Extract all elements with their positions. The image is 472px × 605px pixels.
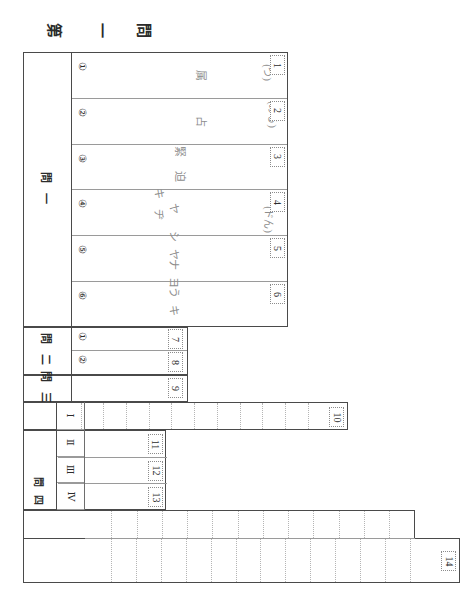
section-label-mon-2: 問 二	[24, 328, 72, 374]
answer-number-box[interactable]: 14	[441, 551, 456, 571]
mon-3-rows: 9	[72, 376, 187, 401]
section-label-mon-3: 問 三	[24, 376, 72, 401]
answer-row[interactable]: 9	[72, 376, 187, 401]
answer-number-box[interactable]: 11	[148, 434, 163, 454]
page-title-char-2: 一	[96, 20, 111, 41]
section-mon-1: 問 一 ① 属 (つ) 1 ② 占 (める) 2 ③ 緊 迫 3 ④ キ ヂ (…	[23, 52, 288, 327]
item-marker: ②	[78, 107, 87, 118]
item-marker: ②	[78, 354, 87, 365]
item-marker: ①	[78, 61, 87, 72]
answer-number-box[interactable]: 13	[148, 487, 163, 507]
mon-1-rows: ① 属 (つ) 1 ② 占 (める) 2 ③ 緊 迫 3 ④ キ ヂ (ドん) …	[72, 53, 287, 326]
answer-row[interactable]: ① 7	[72, 328, 187, 351]
section-5-row-1[interactable]	[23, 510, 415, 538]
mon-2-rows: ① 7 ② 8	[72, 328, 187, 374]
row-marker-4: Ⅳ	[57, 483, 84, 510]
answer-row[interactable]: ② 8	[72, 351, 187, 374]
answer-number-box[interactable]: 1	[270, 55, 285, 75]
answer-number-box[interactable]: 7	[168, 329, 183, 349]
answer-text: 緊 迫	[160, 159, 203, 175]
answer-text: 属	[196, 67, 207, 83]
page-title-char-3: 問	[138, 20, 153, 41]
item-marker: ①	[78, 331, 87, 342]
answer-reading: (ドん)	[256, 212, 283, 227]
answer-number-box[interactable]: 10	[329, 407, 344, 427]
page-title-char-1: 第	[48, 20, 63, 41]
item-marker: ⑤	[78, 244, 87, 255]
answer-text: 占	[196, 113, 207, 129]
answer-row[interactable]: ⑥ ヤ ヨ キ ヨ 6	[72, 282, 287, 328]
writing-grid-5-2[interactable]	[86, 539, 437, 582]
row-marker-2: Ⅱ	[57, 430, 84, 457]
answer-number-box[interactable]: 6	[270, 284, 285, 304]
answer-number-box[interactable]: 5	[270, 238, 285, 258]
answer-row[interactable]: ③ 緊 迫 3	[72, 145, 287, 191]
answer-row[interactable]: ② 占 (める) 2	[72, 99, 287, 145]
answer-number-box[interactable]: 4	[270, 192, 285, 212]
item-marker: ③	[78, 153, 87, 164]
writing-grid-5-1[interactable]	[86, 511, 414, 538]
section-mon-2: 問 二 ① 7 ② 8	[23, 327, 188, 375]
answer-number-box[interactable]: 8	[168, 352, 183, 372]
writing-grid-row-1[interactable]	[58, 403, 325, 429]
row-marker-1: Ⅰ	[57, 402, 84, 430]
section-mon-3: 問 三 9	[23, 375, 188, 402]
answer-row[interactable]: ① 属 (つ) 1	[72, 53, 287, 99]
answer-number-box[interactable]: 3	[270, 147, 285, 167]
section-label-mon-1: 問 一	[24, 53, 72, 326]
item-marker: ④	[78, 198, 87, 209]
item-marker: ⑥	[78, 290, 87, 301]
answer-number-box[interactable]: 9	[168, 378, 183, 398]
page-title: 第 一 問	[40, 16, 180, 50]
row-marker-3: Ⅲ	[57, 457, 84, 484]
answer-number-box[interactable]: 12	[148, 461, 163, 481]
section-5-divider	[85, 538, 415, 539]
section-5-row-2[interactable]: 14	[23, 538, 460, 583]
answer-number-box[interactable]: 2	[270, 101, 285, 121]
answer-text: ヤ ヨ キ ヨ	[124, 292, 225, 308]
